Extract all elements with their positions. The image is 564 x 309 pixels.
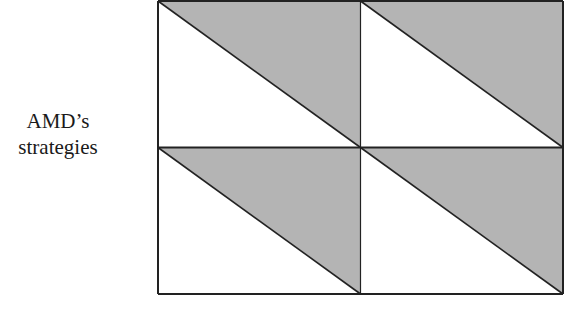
- payoff-matrix: [0, 0, 564, 309]
